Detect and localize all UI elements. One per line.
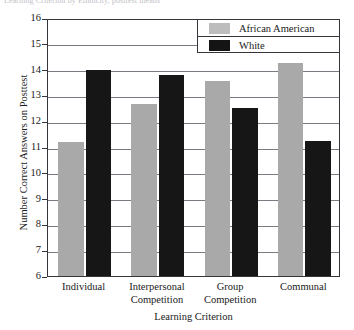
legend-label-white: White <box>239 40 265 51</box>
y-tick-label-6: 6 <box>16 270 41 281</box>
y-tick-mark-14 <box>42 70 47 71</box>
y-tick-label-7: 7 <box>16 244 41 255</box>
legend: African American White <box>197 19 340 53</box>
legend-swatch-white <box>209 40 230 51</box>
bar-african-american-2 <box>131 104 157 276</box>
legend-label-african-american: African American <box>239 23 315 34</box>
y-tick-label-9: 9 <box>16 193 41 204</box>
legend-item-african-american: African American <box>198 20 339 37</box>
y-tick-mark-9 <box>42 199 47 200</box>
y-tick-label-14: 14 <box>16 64 41 75</box>
bar-chart-figure: Learning Criterion by Ethnicity, posttes… <box>0 0 354 330</box>
x-category-label-4: Communal <box>255 281 352 294</box>
bar-white-1 <box>86 70 112 276</box>
y-tick-mark-13 <box>42 96 47 97</box>
y-tick-label-8: 8 <box>16 218 41 229</box>
y-tick-label-16: 16 <box>16 12 41 23</box>
y-tick-mark-7 <box>42 251 47 252</box>
bar-white-3 <box>232 108 258 276</box>
y-tick-mark-8 <box>42 225 47 226</box>
bar-white-4 <box>305 141 331 276</box>
bar-african-american-4 <box>278 63 304 276</box>
bar-african-american-1 <box>58 142 84 276</box>
y-tick-mark-6 <box>42 277 47 278</box>
y-tick-mark-11 <box>42 148 47 149</box>
legend-swatch-african-american <box>209 23 230 34</box>
legend-item-white: White <box>198 37 339 53</box>
y-tick-mark-16 <box>42 19 47 20</box>
y-tick-mark-15 <box>42 44 47 45</box>
y-tick-mark-12 <box>42 122 47 123</box>
y-tick-label-10: 10 <box>16 167 41 178</box>
y-tick-mark-10 <box>42 173 47 174</box>
y-tick-label-12: 12 <box>16 115 41 126</box>
x-axis-title: Learning Criterion <box>47 311 340 322</box>
bar-white-2 <box>159 75 185 276</box>
y-tick-label-13: 13 <box>16 89 41 100</box>
clipped-header-text: Learning Criterion by Ethnicity, posttes… <box>4 0 304 5</box>
y-tick-label-15: 15 <box>16 38 41 49</box>
y-tick-label-11: 11 <box>16 141 41 152</box>
plot-area <box>47 19 340 277</box>
bar-african-american-3 <box>205 81 231 276</box>
